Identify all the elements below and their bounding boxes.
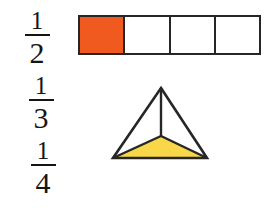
triangle-model-three-parts[interactable] — [105, 82, 217, 166]
bar-cell-1[interactable] — [80, 17, 125, 53]
bar-model-four-parts[interactable] — [78, 15, 261, 55]
bar-cell-2[interactable] — [125, 17, 170, 53]
fraction-one-third-numerator: 1 — [6, 73, 76, 98]
worksheet-canvas: 1 2 1 3 1 4 — [0, 0, 275, 210]
fraction-one-quarter: 1 4 — [8, 138, 78, 199]
fraction-one-quarter-denominator: 4 — [8, 168, 78, 199]
fraction-one-half-numerator: 1 — [2, 8, 72, 33]
bar-cell-4[interactable] — [216, 17, 259, 53]
fraction-one-quarter-numerator: 1 — [8, 138, 78, 163]
fraction-one-third: 1 3 — [6, 73, 76, 134]
fraction-one-half: 1 2 — [2, 8, 72, 69]
fraction-one-third-denominator: 3 — [6, 103, 76, 134]
triangle-svg — [105, 82, 217, 166]
fraction-label-column: 1 2 1 3 1 4 — [0, 0, 70, 210]
bar-cell-3[interactable] — [171, 17, 216, 53]
fraction-one-half-denominator: 2 — [2, 38, 72, 69]
